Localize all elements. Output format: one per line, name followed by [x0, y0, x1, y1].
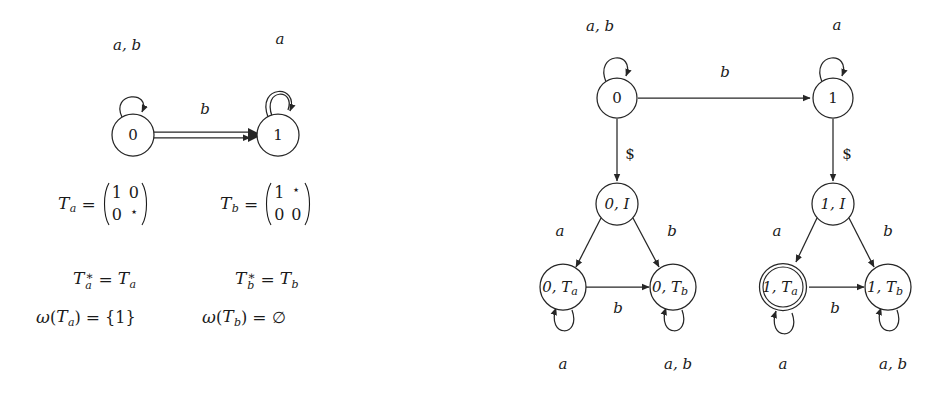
equals-sign-4: =	[256, 269, 280, 289]
right-selfloop-r0Tb-label: a, b	[664, 355, 692, 373]
right-transition-r1I-r1Tb-label: b	[883, 222, 893, 240]
left-state-q1-label: 1	[273, 126, 283, 144]
right-transition-r0I-r0Tb-label: b	[667, 222, 677, 240]
omega-Tb-arg: Tb	[222, 306, 241, 329]
Tb-cell-11: 0	[291, 205, 301, 225]
right-selfloop-r0Tb	[664, 308, 684, 331]
equals-sign-5: =	[81, 307, 105, 327]
Tb-cell-01: ⋆	[291, 182, 301, 202]
right-paren-1	[141, 182, 150, 226]
left-transition-q0-q1	[154, 128, 262, 142]
omega-symbol-2: ω	[202, 307, 216, 327]
right-transition-r0-r1-label: b	[720, 63, 730, 81]
Ta-matrix-cells: 1 0 0 ⋆	[110, 183, 141, 225]
right-selfloop-r1Ta-label: a	[779, 355, 788, 373]
omega-Ta-value: {1}	[105, 308, 136, 327]
left-state-q1[interactable]: 1	[257, 114, 299, 156]
right-state-r1-label: 1	[828, 89, 838, 107]
left-transition-q0-q1-label: b	[200, 100, 210, 118]
omega-Ta-arg: Ta	[56, 306, 74, 329]
right-selfloop-r0Ta-label: a	[559, 355, 568, 373]
right-selfloop-r0-label: a, b	[586, 17, 614, 35]
Ta-symbol: Ta	[58, 193, 76, 216]
right-automaton-group: a, b a b $ $ a	[540, 16, 911, 373]
right-selfloop-r1Ta	[774, 311, 794, 334]
Ta-star-symbol: T∗a	[73, 268, 94, 290]
omega-Tb-value: ∅	[272, 308, 286, 327]
right-state-r1I[interactable]: 1, I	[812, 183, 854, 225]
right-state-r0I[interactable]: 0, I	[596, 183, 638, 225]
equation-Tb-star: T∗b = Tb	[235, 268, 299, 291]
right-transition-r0-r0I-label: $	[625, 145, 635, 163]
right-transition-r1I-r1Ta	[796, 218, 817, 262]
right-selfloop-r0Ta	[554, 308, 574, 331]
Tb-matrix: 1 ⋆ 0 0	[263, 182, 312, 226]
left-automaton-group: a, b a b 0 1	[112, 30, 299, 156]
right-transition-r1I-r1Ta-label: a	[773, 222, 782, 240]
left-selfloop-q1	[266, 91, 292, 117]
right-state-r0[interactable]: 0	[597, 78, 637, 118]
right-state-r1[interactable]: 1	[813, 78, 853, 118]
left-paren-1	[101, 182, 110, 226]
right-paren-2	[304, 182, 313, 226]
right-state-r1Tb[interactable]: 1, Tb	[865, 264, 911, 310]
Ta-rhs-symbol: Ta	[118, 268, 136, 291]
right-state-r1Ta[interactable]: 1, Ta	[760, 264, 807, 311]
Tb-cell-10: 0	[274, 205, 284, 225]
right-selfloop-r1Tb-label: a, b	[879, 355, 907, 373]
left-selfloop-q0-label: a, b	[113, 36, 141, 54]
right-state-r0Ta[interactable]: 0, Ta	[540, 264, 586, 310]
omega-symbol-1: ω	[36, 307, 50, 327]
right-state-r0Tb[interactable]: 0, Tb	[650, 264, 696, 310]
Ta-cell-01: 0	[129, 183, 139, 203]
right-state-r0-label: 0	[612, 89, 622, 107]
equation-Ta-definition: Ta = 1 0 0 ⋆	[58, 182, 150, 226]
Ta-cell-11: ⋆	[129, 204, 139, 224]
right-transition-r0I-r0Tb	[633, 218, 659, 267]
left-state-q0[interactable]: 0	[112, 114, 154, 156]
right-transition-r1-r1I-label: $	[842, 145, 852, 163]
Ta-cell-10: 0	[112, 205, 122, 225]
left-selfloop-q1-label: a	[276, 30, 285, 48]
right-state-r1I-label: 1, I	[820, 195, 846, 213]
equals-sign-3: =	[94, 269, 118, 289]
Ta-cell-00: 1	[112, 183, 122, 203]
equals-sign-6: =	[247, 307, 271, 327]
right-transition-r0I-r0Ta-label: a	[556, 222, 565, 240]
Tb-symbol: Tb	[220, 193, 239, 216]
right-selfloop-r1Tb	[879, 308, 899, 331]
equation-omega-Tb: ω ( Tb ) = ∅	[202, 306, 286, 329]
right-transition-r0I-r0Ta	[576, 218, 601, 267]
right-state-r0I-label: 0, I	[604, 195, 630, 213]
Tb-star-symbol: T∗b	[235, 268, 256, 290]
equation-Tb-definition: Tb = 1 ⋆ 0 0	[220, 182, 313, 226]
right-transition-r0Ta-r0Tb-label: b	[613, 299, 623, 317]
right-transition-r1I-r1Tb	[849, 218, 874, 267]
equals-sign-1: =	[76, 194, 100, 214]
matrix-equations-block: Ta = 1 0 0 ⋆	[30, 182, 350, 342]
equation-omega-Ta: ω ( Ta ) = {1}	[36, 306, 136, 329]
equation-Ta-star: T∗a = Ta	[73, 268, 136, 291]
left-state-q0-label: 0	[128, 126, 138, 144]
equals-sign-2: =	[239, 194, 263, 214]
Ta-matrix: 1 0 0 ⋆	[101, 182, 150, 226]
Tb-rhs-symbol: Tb	[280, 268, 299, 291]
right-transition-r1Ta-r1Tb-label: b	[830, 299, 840, 317]
left-paren-2	[263, 182, 272, 226]
Tb-matrix-cells: 1 ⋆ 0 0	[272, 183, 303, 225]
figure-root: a, b a b 0 1	[0, 0, 951, 398]
right-selfloop-r1-label: a	[833, 16, 842, 34]
Tb-cell-00: 1	[274, 183, 284, 203]
